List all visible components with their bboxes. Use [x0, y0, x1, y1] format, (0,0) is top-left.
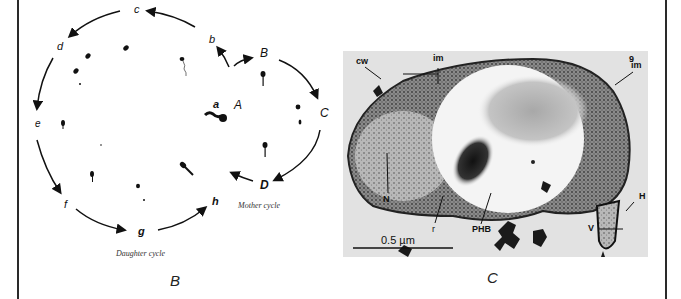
label-im-top: im [433, 54, 444, 63]
stage-label-e: e [35, 119, 41, 129]
stage-label-d: d [57, 41, 63, 52]
stage-label-C: C [320, 107, 329, 119]
stage-label-f: f [64, 199, 67, 210]
scale-bar-label: 0.5 µm [381, 234, 415, 246]
panel-b-life-cycle-diagram: c d e f g h b a A B C D Mother cycle Dau… [20, 0, 330, 299]
stage-label-c: c [134, 4, 140, 15]
stage-label-D: D [260, 179, 269, 191]
label-ribosome-r: r [432, 225, 435, 234]
cycle-arrows [20, 0, 330, 299]
stage-label-a: a [213, 99, 219, 110]
label-phb: PHB [472, 225, 491, 234]
mother-cycle-caption: Mother cycle [238, 201, 280, 210]
stage-label-B: B [260, 47, 268, 59]
label-nucleoid-n: N [383, 195, 390, 204]
daughter-cycle-caption: Daughter cycle [116, 249, 165, 258]
label-im-right: im [631, 61, 642, 70]
micrograph-image [343, 51, 648, 257]
frame-left-border [17, 0, 19, 299]
label-hypha-h: H [639, 192, 646, 201]
electron-micrograph: 9 cw im im N r PHB H V 0.5 µm [343, 51, 648, 257]
panel-letter-b: B [170, 272, 180, 289]
frame-right-border [665, 0, 667, 299]
label-cw: cw [356, 57, 368, 66]
stage-label-h: h [212, 196, 219, 207]
stage-label-g: g [138, 226, 145, 237]
label-vesicle-v: V [588, 224, 594, 233]
panel-letter-c: C [487, 269, 498, 286]
stage-label-A: A [234, 99, 242, 111]
stage-label-b: b [209, 34, 215, 45]
